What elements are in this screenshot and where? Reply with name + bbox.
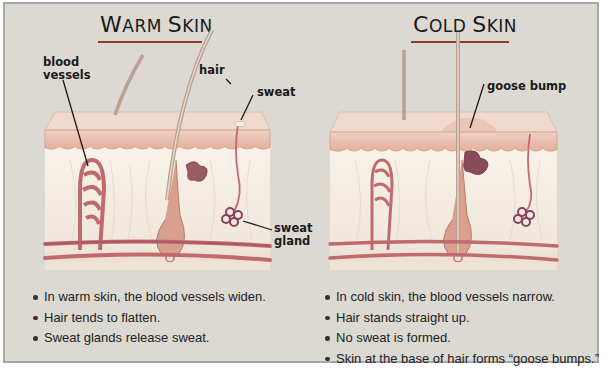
bullet-item: No sweat is formed. xyxy=(325,328,599,349)
cold-skin-bullets: In cold skin, the blood vessels narrow. … xyxy=(325,287,599,369)
label-sweat-gland: sweat gland xyxy=(274,222,313,248)
bullet-item: Sweat glands release sweat. xyxy=(33,328,266,349)
bullet-item: Hair tends to flatten. xyxy=(33,308,266,329)
cold-skin-block xyxy=(330,32,557,270)
warm-skin-bullets: In warm skin, the blood vessels widen. H… xyxy=(33,287,266,349)
label-blood-vessels: blood vessels xyxy=(43,56,91,82)
label-sweat: sweat xyxy=(257,86,296,99)
bullet-item: In warm skin, the blood vessels widen. xyxy=(33,287,266,308)
label-hair: hair xyxy=(199,64,225,77)
bullet-item: Skin at the base of hair forms “goose bu… xyxy=(325,349,599,370)
bullet-item: Hair stands straight up. xyxy=(325,308,599,329)
label-goose-bump: goose bump xyxy=(487,80,566,93)
warm-hair-strand-2 xyxy=(115,55,143,115)
sweat-droplet xyxy=(235,122,245,127)
label-line: gland xyxy=(274,235,313,248)
bullet-item: In cold skin, the blood vessels narrow. xyxy=(325,287,599,308)
label-line: vessels xyxy=(43,69,91,82)
